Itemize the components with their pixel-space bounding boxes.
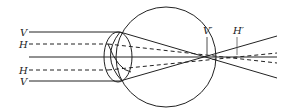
eye-optics-diagram: V H H V V′ H′ [0,0,290,111]
label-v-bottom: V [20,76,29,87]
ray-v-top-refracted [120,32,277,78]
label-h-prime: H′ [232,25,245,36]
label-h-bottom: H [18,65,28,76]
ray-h-bottom-refracted [108,53,277,70]
ray-v-bottom-refracted [120,36,277,81]
label-h-top: H [18,39,28,50]
label-v-prime: V′ [203,25,213,36]
label-v-top: V [20,27,29,38]
